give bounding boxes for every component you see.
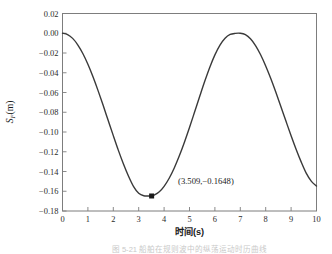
y-tick-label: −0.10	[39, 128, 58, 137]
y-axis-label-unit: (m)	[4, 101, 16, 115]
minimum-annotation-label: (3.509,−0.1648)	[178, 176, 234, 186]
x-tick-label: 5	[187, 215, 191, 224]
data-markers	[149, 193, 154, 198]
y-tick-label: −0.12	[39, 148, 58, 157]
y-tick-label: −0.04	[39, 69, 59, 78]
y-tick-label: −0.08	[39, 108, 58, 117]
x-tick-label: 3	[137, 215, 141, 224]
x-tick-label: 2	[111, 215, 115, 224]
y-tick-label: −0.06	[39, 89, 58, 98]
x-tick-label: 1	[86, 215, 90, 224]
x-tick-label: 7	[238, 215, 242, 224]
y-tick-label: −0.02	[39, 49, 58, 58]
x-tick-label: 10	[312, 215, 320, 224]
x-tick-label: 9	[289, 215, 293, 224]
x-tick-label: 6	[213, 215, 217, 224]
figure-container: 0.020.00−0.02−0.04−0.06−0.08−0.10−0.12−0…	[0, 0, 332, 254]
y-axis-label: SF(m)	[4, 101, 16, 124]
svg-text:SF(m): SF(m)	[4, 101, 16, 124]
x-axis-label: 时间(s)	[175, 226, 204, 237]
y-tick-label: −0.18	[39, 207, 58, 216]
x-tick-label: 0	[60, 215, 64, 224]
figure-caption: 图 5-21 船舶在规则波中的纵荡运动时历曲线	[112, 244, 267, 254]
y-tick-label: −0.14	[39, 168, 59, 177]
y-tick-label: −0.16	[39, 187, 58, 196]
minimum-point	[149, 193, 154, 198]
y-tick-label: 0.02	[44, 10, 59, 19]
chart-canvas: 0.020.00−0.02−0.04−0.06−0.08−0.10−0.12−0…	[0, 0, 332, 254]
y-tick-label: 0.00	[44, 29, 59, 38]
x-tick-label: 8	[264, 215, 268, 224]
